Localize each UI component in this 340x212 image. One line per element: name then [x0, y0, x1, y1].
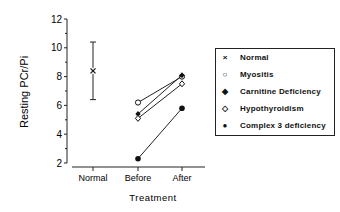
y-tick-label: 10	[51, 42, 63, 53]
legend: × Normal ○ Myositis ◆ Carnitine Deficien…	[215, 48, 335, 136]
legend-item-carnitine-deficiency: ◆ Carnitine Deficiency	[216, 83, 321, 99]
legend-item-myositis: ○ Myositis	[216, 66, 274, 82]
legend-label: Normal	[240, 53, 269, 62]
legend-label: Carnitine Deficiency	[240, 87, 321, 96]
x-marker-icon: ×	[220, 53, 230, 62]
x-axis-label: Treatment	[129, 192, 176, 203]
filled-diamond-marker-icon: ◆	[220, 87, 230, 96]
legend-label: Complex 3 deficiency	[240, 121, 326, 130]
open-circle-marker-icon: ○	[220, 70, 230, 79]
axes: 24681012NormalBeforeAfter	[51, 14, 205, 184]
plot-area	[90, 42, 185, 161]
legend-label: Myositis	[240, 70, 274, 79]
legend-item-complex-3-deficiency: ● Complex 3 deficiency	[216, 117, 326, 133]
y-axis-label: Resting PCr/Pi	[18, 56, 30, 128]
legend-item-hypothyroidism: ◇ Hypothyroidism	[216, 100, 304, 116]
filled-circle-marker-icon: ●	[220, 121, 230, 130]
y-tick-label: 4	[56, 129, 62, 140]
x-tick-label: After	[172, 173, 191, 183]
legend-label: Hypothyroidism	[240, 104, 304, 113]
x-tick-label: Before	[125, 173, 152, 183]
open-diamond-marker-icon: ◇	[220, 104, 230, 113]
y-tick-label: 8	[56, 71, 62, 82]
y-tick-label: 6	[56, 100, 62, 111]
y-tick-label: 12	[51, 14, 63, 25]
y-tick-label: 2	[56, 158, 62, 169]
legend-item-normal: × Normal	[216, 49, 269, 65]
x-tick-label: Normal	[78, 173, 107, 183]
